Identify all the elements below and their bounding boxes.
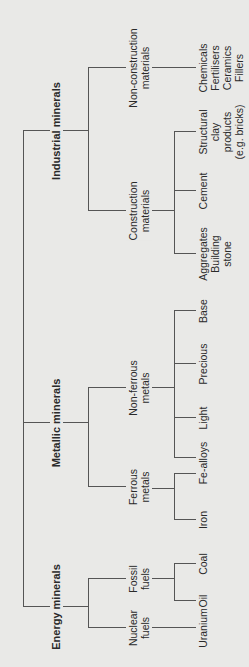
metallic-stem	[63, 422, 88, 423]
precious-drop	[174, 363, 196, 364]
leaf-uranium: Uranium	[197, 608, 209, 648]
industrial-bracket	[88, 67, 89, 211]
non-construction-materials-label: Non-construction materials	[126, 28, 152, 107]
non-ferrous-stem	[152, 387, 174, 388]
metallic-minerals-label: Metallic minerals	[50, 377, 63, 470]
leaf-iron: Iron	[197, 511, 209, 529]
cement-drop	[174, 190, 196, 191]
ferrous-metals-label: Ferrous metals	[126, 469, 152, 505]
coal-drop	[174, 563, 196, 564]
leaf-fe-alloys: Fe-alloys	[197, 442, 209, 485]
ferrous-bracket	[174, 473, 175, 520]
energy-minerals-label: Energy minerals	[50, 562, 63, 652]
leaf-aggregates: Aggregates Building stone	[197, 227, 233, 281]
non-ferrous-bracket	[174, 310, 175, 458]
non-ferrous-end-drop	[174, 457, 196, 458]
leaf-coal: Coal	[197, 553, 209, 575]
metallic-drop	[23, 422, 53, 423]
root-spine	[23, 130, 24, 607]
nuclear-stem	[152, 627, 196, 628]
leaf-cement: Cement	[197, 173, 209, 210]
energy-bracket	[88, 579, 89, 628]
construction-stem	[152, 210, 174, 211]
base-drop	[174, 310, 196, 311]
leaf-non-construction-products: Chemicals Fertilisers Ceramics Fillers	[197, 43, 245, 92]
light-drop	[174, 417, 196, 418]
nuclear-drop	[88, 627, 126, 628]
leaf-oil: Oil	[197, 595, 209, 608]
non-construction-stem	[152, 67, 196, 68]
aggregates-drop	[174, 253, 196, 254]
non-ferrous-metals-label: Non-ferrous metals	[126, 360, 152, 415]
fossil-bracket	[174, 563, 175, 601]
ferrous-drop	[88, 486, 126, 487]
energy-stem	[63, 606, 88, 607]
structural-clay-drop	[174, 131, 196, 132]
leaf-light: Light	[197, 407, 209, 430]
non-ferrous-drop	[88, 387, 126, 388]
oil-drop	[174, 600, 196, 601]
industrial-drop	[23, 130, 53, 131]
non-construction-drop	[88, 67, 126, 68]
leaf-structural-clay: Structural clay products (e.g. bricks)	[197, 105, 245, 160]
construction-materials-label: Construction materials	[126, 182, 152, 241]
fossil-drop	[88, 578, 126, 579]
industrial-stem	[63, 130, 88, 131]
industrial-minerals-label: Industrial minerals	[50, 80, 63, 182]
fossil-fuels-label: Fossil fuels	[126, 565, 152, 592]
ferrous-stem	[152, 488, 174, 489]
leaf-precious: Precious	[197, 344, 209, 385]
metallic-bracket	[88, 388, 89, 487]
fossil-stem	[152, 578, 174, 579]
fe-alloys-drop	[174, 473, 196, 474]
energy-drop	[23, 606, 53, 607]
construction-bracket	[174, 131, 175, 254]
mineral-classification-tree: Energy minerals Nuclear fuels Uranium Fo…	[0, 0, 249, 667]
leaf-base: Base	[197, 299, 209, 323]
iron-drop	[174, 519, 196, 520]
nuclear-fuels-label: Nuclear fuels	[126, 610, 152, 646]
construction-drop	[88, 210, 126, 211]
